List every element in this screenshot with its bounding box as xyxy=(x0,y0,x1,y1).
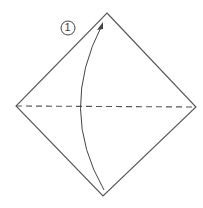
arrowhead-icon xyxy=(97,22,103,30)
origami-diagram xyxy=(0,0,203,208)
fold-arrow xyxy=(80,25,104,190)
valley-fold-line xyxy=(16,106,196,107)
paper-square xyxy=(16,13,196,196)
step-number: 1 xyxy=(65,21,71,33)
